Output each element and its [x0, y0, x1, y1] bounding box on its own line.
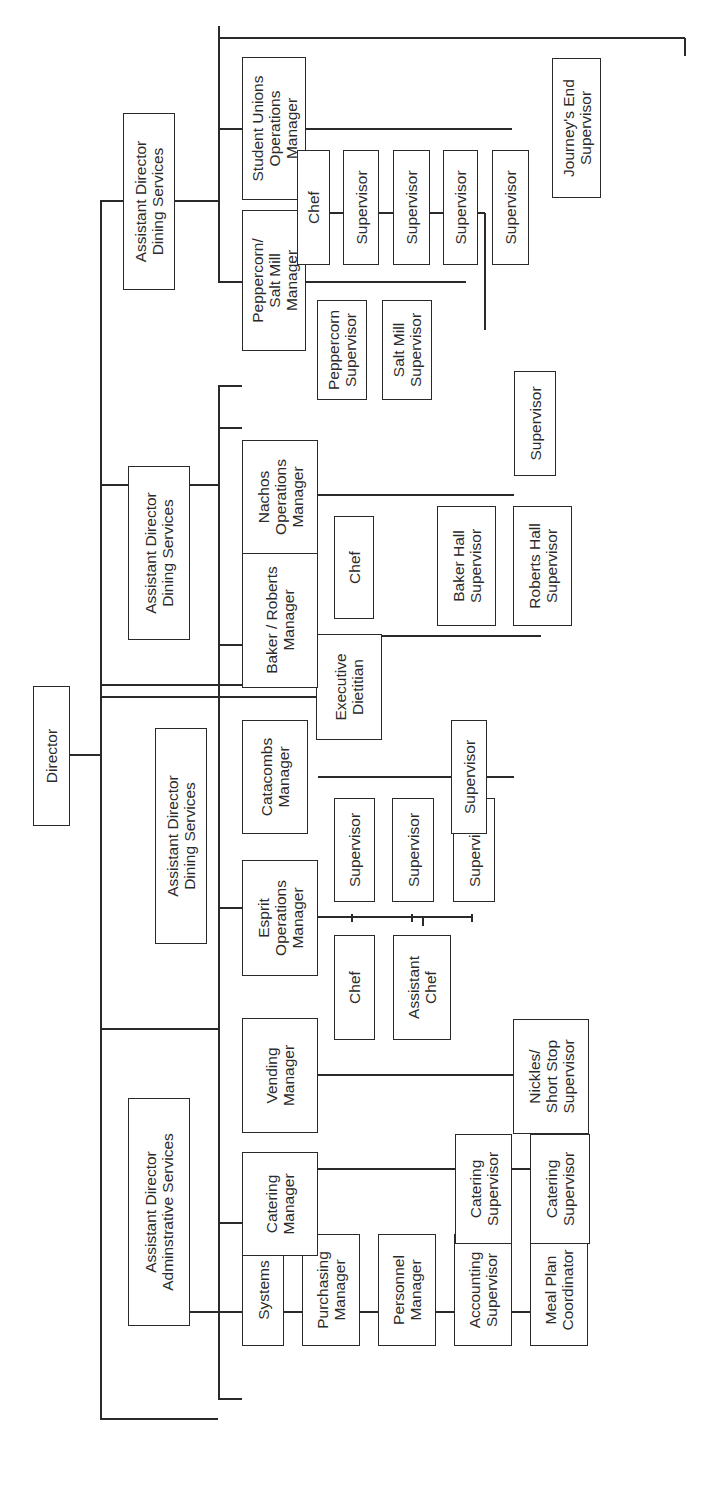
connector [218, 428, 220, 646]
connector [218, 1222, 242, 1224]
connector [318, 916, 473, 918]
connector [218, 37, 685, 39]
connector [70, 754, 101, 756]
connector [218, 385, 242, 387]
node-catering-supervisor-2: Catering Supervisor [530, 1134, 590, 1244]
node-roberts-hall-supervisor: Roberts Hall Supervisor [513, 506, 572, 626]
node-journeys-end-supervisor: Journey's End Supervisor [552, 58, 601, 198]
node-catering-manager: Catering Manager [242, 1152, 318, 1256]
connector [471, 914, 473, 922]
connector [100, 201, 102, 1420]
connector [318, 1168, 560, 1170]
node-esprit-supervisor-1: Supervisor [334, 798, 375, 902]
connector [484, 213, 486, 330]
connector [100, 1418, 218, 1420]
connector [318, 494, 514, 496]
node-unions-supervisor-2: Supervisor [393, 150, 430, 265]
node-ad-admin: Assistant Director Adminstrative Service… [128, 1098, 190, 1326]
node-accounting: Accounting Supervisor [454, 1234, 512, 1346]
connector [218, 1398, 242, 1400]
connector [684, 38, 686, 56]
node-esprit-chef: Chef [334, 935, 375, 1040]
node-ad-dining-2: Assistant Director Dining Services [128, 466, 190, 640]
connector [282, 281, 466, 283]
node-meal-plan: Meal Plan Coordinator [530, 1234, 588, 1346]
node-saltmill-supervisor: Salt Mill Supervisor [382, 300, 432, 400]
node-nachos-supervisor: Supervisor [514, 371, 556, 476]
node-unions-supervisor-4: Supervisor [492, 150, 529, 265]
node-catering-supervisor-1: Catering Supervisor [455, 1134, 512, 1244]
node-esprit-manager: Esprit Operations Manager [242, 860, 318, 976]
connector [318, 1074, 514, 1076]
connector [282, 128, 512, 130]
connector [218, 907, 242, 909]
connector [218, 281, 242, 283]
node-nachos-manager: Nachos Operations Manager [242, 440, 318, 554]
node-nachos-chef: Chef [334, 516, 374, 619]
connector [218, 26, 220, 283]
node-catacombs-supervisor: Supervisor [451, 720, 487, 834]
connector [218, 128, 242, 130]
node-nickles-supervisor: Nickles/ Short Stop Supervisor [513, 1019, 589, 1134]
connector [100, 1028, 218, 1030]
node-baker-hall-supervisor: Baker Hall Supervisor [437, 506, 496, 626]
node-peppercorn-supervisor: Peppercorn Supervisor [317, 300, 367, 400]
connector [218, 427, 242, 429]
connector [411, 914, 413, 922]
connector [422, 917, 424, 926]
connector [218, 644, 242, 646]
org-chart: Director Assistant Director Adminstrativ… [0, 0, 725, 1496]
node-vending-manager: Vending Manager [242, 1018, 318, 1133]
node-executive-dietitian: Executive Dietitian [316, 634, 382, 740]
node-baker-roberts-manager: Baker / Roberts Manager [242, 552, 318, 688]
node-unions-supervisor-3: Supervisor [443, 150, 478, 265]
node-esprit-assistant-chef: Assistant Chef [393, 935, 451, 1040]
node-ad-dining-3: Assistant Director Dining Services [123, 113, 175, 290]
node-esprit-supervisor-2: Supervisor [392, 798, 434, 902]
node-catacombs-manager: Catacombs Manager [242, 720, 308, 834]
node-personnel: Personnel Manager [378, 1234, 436, 1346]
connector [351, 914, 353, 922]
node-ad-dining-1: Assistant Director Dining Services [155, 728, 207, 944]
node-unions-chef: Chef [297, 150, 330, 265]
node-unions-supervisor-1: Supervisor [343, 150, 379, 265]
node-director: Director [33, 686, 70, 826]
